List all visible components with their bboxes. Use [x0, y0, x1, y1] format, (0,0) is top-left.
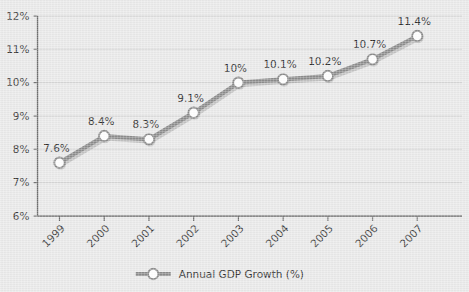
chart-container: 6%7%8%9%10%11%12% 1999200020012002200320…	[0, 0, 469, 292]
data-point-marker[interactable]	[54, 157, 64, 167]
y-axis: 6%7%8%9%10%11%12%	[6, 10, 37, 222]
data-point-label: 11.4%	[398, 15, 431, 27]
data-point-marker[interactable]	[367, 54, 377, 64]
y-tick-label: 9%	[13, 110, 30, 122]
y-tick-label: 10%	[6, 76, 29, 88]
data-point-label: 10.2%	[308, 55, 341, 67]
x-tick-label: 1999	[40, 222, 67, 249]
y-tick-label: 11%	[6, 43, 29, 55]
x-axis: 199920002001200220032004200520062007	[38, 216, 463, 249]
data-point-marker[interactable]	[278, 74, 288, 84]
data-point-label: 9.1%	[177, 92, 204, 104]
chart-legend: Annual GDP Growth (%)	[136, 268, 304, 280]
data-point-marker[interactable]	[99, 131, 109, 141]
x-tick-label: 2004	[263, 222, 291, 250]
y-tick-label: 6%	[13, 210, 30, 222]
y-tick-label: 12%	[6, 10, 29, 22]
x-tick-label: 2000	[84, 222, 111, 249]
x-tick-label: 2005	[308, 222, 335, 249]
y-tick-label: 8%	[13, 143, 30, 155]
legend-label[interactable]: Annual GDP Growth (%)	[179, 268, 304, 280]
x-tick-label: 2003	[218, 222, 245, 249]
series-line-shadow	[61, 38, 419, 165]
data-point-marker[interactable]	[323, 71, 333, 81]
x-tick-label: 2002	[174, 222, 201, 249]
line-chart: 6%7%8%9%10%11%12% 1999200020012002200320…	[0, 0, 469, 292]
data-point-marker[interactable]	[188, 107, 198, 117]
data-point-marker[interactable]	[233, 77, 243, 87]
series-line	[60, 36, 418, 163]
data-point-label: 10%	[224, 62, 247, 74]
x-tick-label: 2001	[129, 222, 156, 249]
legend-marker-swatch	[148, 269, 158, 279]
data-point-label: 10.1%	[263, 58, 296, 70]
data-point-label: 10.7%	[353, 38, 386, 50]
gridlines	[38, 16, 463, 183]
data-point-label: 8.4%	[88, 115, 115, 127]
data-point-label: 8.3%	[133, 118, 160, 130]
data-point-marker[interactable]	[412, 31, 422, 41]
data-point-label: 7.6%	[43, 142, 70, 154]
y-tick-label: 7%	[13, 176, 30, 188]
x-tick-label: 2006	[353, 222, 381, 250]
data-point-marker[interactable]	[144, 134, 154, 144]
x-tick-label: 2007	[397, 222, 424, 249]
